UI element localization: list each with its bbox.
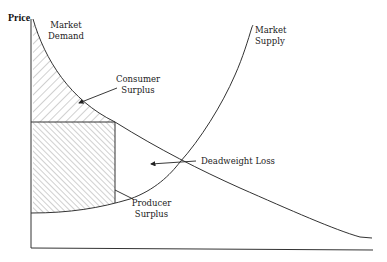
supply-label-line2: Supply [255,36,286,47]
economic-surplus-diagram: Price Market Demand Market Supply Consum… [0,0,387,262]
supply-label: Market Supply [255,25,286,47]
demand-label-line2: Demand [46,31,86,42]
producer-surplus-label-line2: Surplus [129,209,174,220]
demand-label: Market Demand [46,20,86,42]
consumer-surplus-arrow [79,88,117,103]
producer-surplus-label-line1: Producer [129,198,174,209]
consumer-surplus-label-line2: Surplus [113,85,163,96]
producer-surplus-label: Producer Surplus [129,198,174,220]
producer-surplus-region [33,122,115,213]
consumer-surplus-label-line1: Consumer [113,74,163,85]
consumer-surplus-label: Consumer Surplus [113,74,163,96]
supply-label-pointer [252,25,253,27]
demand-label-line1: Market [46,20,86,31]
deadweight-loss-label: Deadweight Loss [201,156,275,167]
supply-label-line1: Market [255,25,286,36]
x-axis [31,248,373,250]
y-axis-title: Price [8,12,30,23]
